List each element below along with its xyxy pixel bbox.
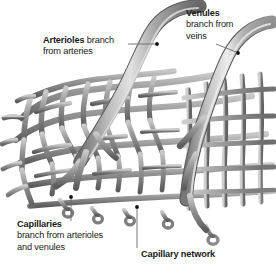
label-arterioles: Arterioles branch from arteries (43, 35, 114, 58)
label-capillaries-term: Capillaries (17, 219, 103, 230)
label-capillaries: Capillaries branch from arterioles and v… (17, 219, 103, 253)
label-arterioles-line1: Arterioles branch (43, 35, 114, 46)
label-capillaries-line3: and venules (17, 242, 103, 253)
label-capillary-network-term: Capillary network (141, 249, 215, 260)
label-arterioles-line2: from arteries (43, 46, 114, 57)
label-capillary-network: Capillary network (141, 249, 215, 260)
label-arterioles-line1-rest: branch (84, 35, 114, 45)
label-arterioles-term: Arterioles (43, 35, 84, 45)
label-venules-line2: branch from (186, 19, 233, 30)
label-venules-line3: veins (186, 31, 233, 42)
label-venules: Venules branch from veins (186, 8, 233, 42)
capillary-network-figure: Arterioles branch from arteries Venules … (0, 0, 276, 274)
label-venules-term: Venules (186, 8, 233, 19)
label-capillaries-line2: branch from arterioles (17, 230, 103, 241)
